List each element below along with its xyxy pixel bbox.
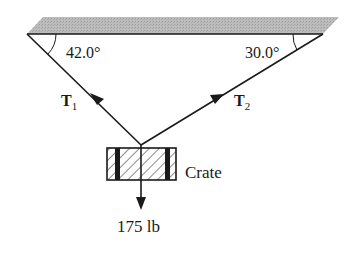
crate-label: Crate xyxy=(185,163,222,182)
t1-arrowhead-icon xyxy=(90,93,104,105)
ceiling xyxy=(27,17,339,34)
angle-right-label: 30.0° xyxy=(245,44,279,61)
crate-band-left xyxy=(115,148,120,180)
crate-band-right xyxy=(165,148,170,180)
statics-diagram: 42.0° 30.0° T1 T2 Crate 175 lb xyxy=(0,0,356,253)
angle-arc-right-icon xyxy=(293,34,297,50)
tension-t2-label: T2 xyxy=(234,92,250,112)
t2-symbol: T xyxy=(234,92,245,109)
load-label: 175 lb xyxy=(117,217,160,236)
cable-t2 xyxy=(141,34,323,145)
t2-subscript: 2 xyxy=(245,100,251,112)
angle-left-label: 42.0° xyxy=(66,44,100,61)
angle-arc-left-icon xyxy=(48,34,56,54)
t1-subscript: 1 xyxy=(72,100,78,112)
tension-t1-label: T1 xyxy=(61,92,77,112)
ceiling-hatch xyxy=(27,17,339,34)
weight-arrowhead-icon xyxy=(136,197,146,210)
t1-symbol: T xyxy=(61,92,72,109)
